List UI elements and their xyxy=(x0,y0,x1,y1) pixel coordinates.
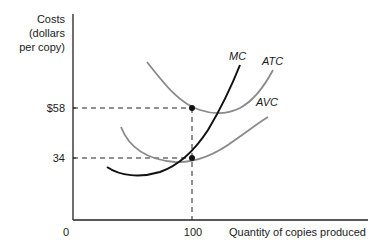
avc-label: AVC xyxy=(255,96,278,108)
x-tick-label-100: 100 xyxy=(184,226,202,238)
x-axis-label: Quantity of copies produced xyxy=(229,226,366,238)
y-axis-label-line2: (dollars xyxy=(29,27,66,39)
cost-curves-chart: Costs (dollars per copy) $58 34 0 100 Qu… xyxy=(0,0,383,249)
y-tick-label-58: $58 xyxy=(47,102,65,114)
x-tick-label-0: 0 xyxy=(63,226,69,238)
atc-label: ATC xyxy=(261,55,283,67)
mc-curve xyxy=(107,65,240,175)
y-axis-label-line3: per copy) xyxy=(19,41,65,53)
avc-curve xyxy=(121,117,268,162)
mc-label: MC xyxy=(229,50,246,62)
atc-curve xyxy=(147,62,273,113)
avc-point-100-34 xyxy=(189,155,195,161)
y-axis-label-line1: Costs xyxy=(37,13,66,25)
atc-point-100-58 xyxy=(189,105,195,111)
y-tick-label-34: 34 xyxy=(53,152,65,164)
